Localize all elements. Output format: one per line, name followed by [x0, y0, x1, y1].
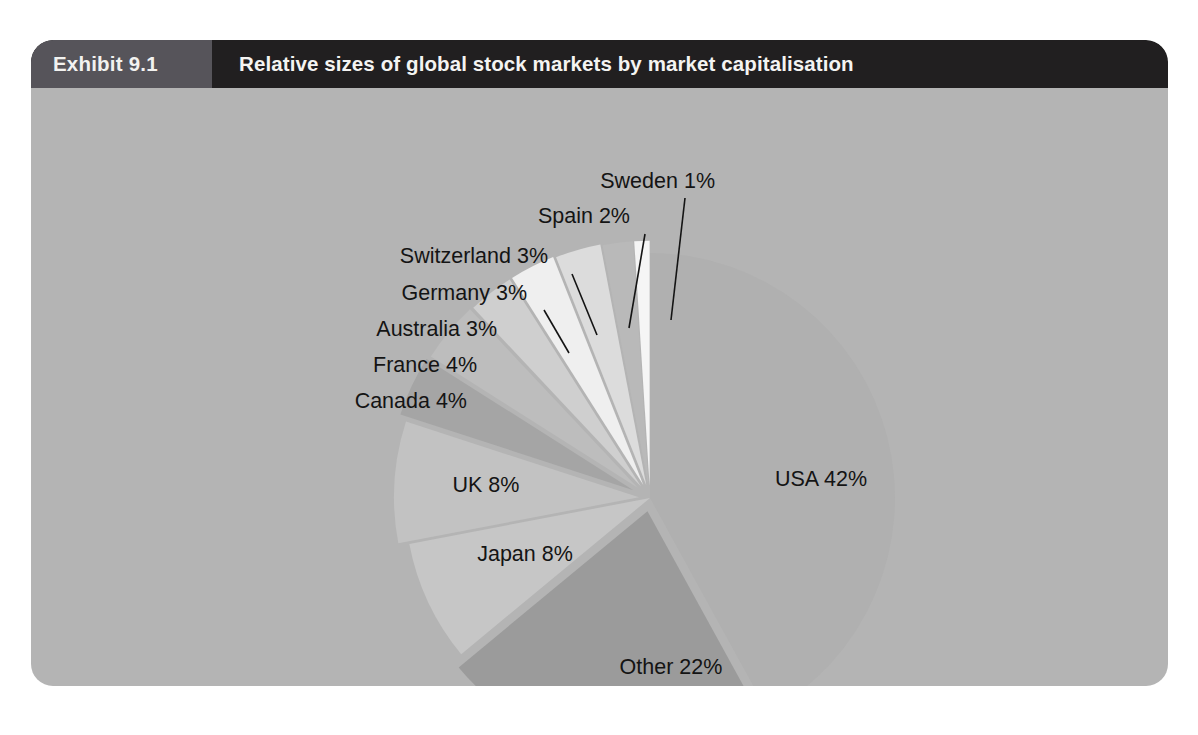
pie-label-germany: Germany 3% [402, 281, 527, 305]
pie-label-canada: Canada 4% [355, 389, 467, 413]
exhibit-number-label: Exhibit 9.1 [53, 52, 158, 76]
pie-chart: USA 42%Other 22%Japan 8%UK 8%Canada 4%Fr… [31, 88, 1168, 686]
pie-label-spain: Spain 2% [538, 204, 630, 228]
pie-slices-group [394, 241, 895, 686]
exhibit-number-badge: Exhibit 9.1 [31, 40, 212, 88]
page-title: Relative sizes of global stock markets b… [239, 52, 854, 76]
pie-label-other: Other 22% [620, 655, 723, 679]
pie-label-sweden: Sweden 1% [600, 169, 715, 193]
exhibit-header: Exhibit 9.1 Relative sizes of global sto… [31, 40, 1168, 88]
pie-label-switzerland: Switzerland 3% [400, 244, 548, 268]
pie-label-france: France 4% [373, 353, 477, 377]
pie-label-uk: UK 8% [453, 473, 520, 497]
pie-label-australia: Australia 3% [376, 317, 497, 341]
exhibit-title-bar: Relative sizes of global stock markets b… [212, 40, 1168, 88]
pie-label-japan: Japan 8% [477, 542, 573, 566]
chart-body: USA 42%Other 22%Japan 8%UK 8%Canada 4%Fr… [31, 88, 1168, 686]
exhibit-panel: Exhibit 9.1 Relative sizes of global sto… [31, 40, 1168, 686]
pie-label-usa: USA 42% [775, 467, 867, 491]
